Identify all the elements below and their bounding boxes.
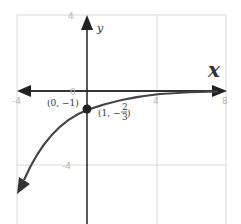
x-axis-label: x [207, 58, 221, 82]
tick-x-4: 4 [153, 96, 159, 106]
svg-text:): ) [127, 108, 131, 118]
y-axis-label: y [96, 22, 104, 35]
graph: -4 4 8 4 0 -4 y x (0, −1) (1, − 2 3 ) [0, 0, 241, 224]
tick-y-neg4: -4 [62, 161, 71, 171]
point-0-neg1 [83, 105, 92, 114]
tick-y-0: 0 [70, 87, 76, 97]
x-axis [17, 85, 227, 97]
tick-x-8: 8 [222, 96, 228, 106]
y-axis-up-arrow-icon [81, 15, 93, 30]
svg-text:(1, −: (1, − [98, 108, 121, 118]
point-0-neg1-label: (0, −1) [47, 98, 79, 108]
tick-y-4: 4 [68, 11, 74, 21]
tick-x-neg4: -4 [12, 96, 21, 106]
y-axis [81, 15, 93, 224]
